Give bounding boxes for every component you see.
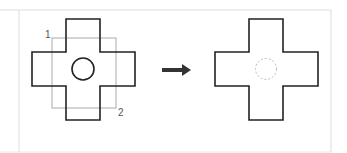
arrow-right-icon bbox=[162, 64, 191, 76]
removed-hole-circle bbox=[256, 59, 277, 80]
diagram-canvas: 1 2 bbox=[0, 0, 347, 153]
corner-label-1: 1 bbox=[45, 29, 51, 40]
before-figure: 1 2 bbox=[32, 19, 135, 120]
after-figure bbox=[215, 19, 318, 120]
corner-label-2: 2 bbox=[118, 107, 124, 118]
cross-outline-result bbox=[215, 19, 318, 120]
selection-rectangle bbox=[52, 38, 116, 108]
hole-circle bbox=[72, 58, 94, 80]
